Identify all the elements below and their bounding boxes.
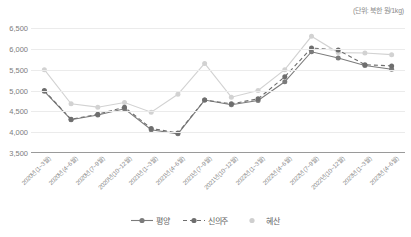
- data-point: [282, 79, 287, 84]
- y-axis-tick-label: 5,500: [0, 65, 28, 74]
- data-point: [202, 61, 207, 66]
- data-point: [229, 95, 234, 100]
- data-point: [202, 98, 207, 103]
- x-axis-line: [31, 152, 405, 153]
- data-point: [69, 101, 74, 106]
- legend-swatch-icon: [183, 211, 205, 229]
- gridline: [31, 28, 405, 29]
- data-point: [69, 117, 74, 122]
- x-axis-tick-label: 2021년(1~3월): [109, 154, 159, 204]
- legend-item-평양[interactable]: 평양: [131, 211, 170, 229]
- y-axis-labels: 3,5004,0004,5005,0005,5006,0006,500: [0, 28, 28, 153]
- series-line-혜산: [44, 36, 391, 112]
- data-point: [229, 101, 234, 106]
- y-axis-tick-label: 4,000: [0, 128, 28, 137]
- x-axis-tick-label: 2020년(7~9월): [56, 154, 106, 204]
- legend-swatch-icon: [241, 211, 263, 229]
- legend-label: 평양: [156, 215, 170, 226]
- data-point: [122, 105, 127, 110]
- y-axis-tick-label: 4,500: [0, 107, 28, 116]
- gridline: [31, 49, 405, 50]
- x-axis-tick-label: 2020년(1~3월): [3, 154, 53, 204]
- unit-note: (단위: 북한 원/1kg): [353, 5, 404, 15]
- chart-container: (단위: 북한 원/1kg) 3,5004,0004,5005,0005,500…: [0, 0, 411, 237]
- gridline: [31, 111, 405, 112]
- data-point: [309, 34, 314, 39]
- plot-area: [31, 28, 405, 153]
- x-axis-tick-label: 2022년(4~6월): [243, 154, 293, 204]
- x-axis-tick-label: 2021년(10~12월): [190, 154, 240, 204]
- gridline: [31, 91, 405, 92]
- data-point: [95, 105, 100, 110]
- data-point: [389, 63, 394, 68]
- y-axis-tick-label: 6,500: [0, 24, 28, 33]
- gridline: [31, 132, 405, 133]
- x-axis-tick-label: 2022년(10~12월): [296, 154, 346, 204]
- x-axis-tick-label: 2020년(10~12월): [83, 154, 133, 204]
- data-point: [389, 52, 394, 57]
- data-point: [336, 56, 341, 61]
- legend-item-혜산[interactable]: 혜산: [241, 211, 280, 229]
- legend-item-신의주[interactable]: 신의주: [183, 211, 228, 229]
- y-axis-tick-label: 3,500: [0, 149, 28, 158]
- legend-swatch-icon: [131, 211, 153, 229]
- x-axis-labels: 2020년(1~3월)2020년(4~6월)2020년(7~9월)2020년(1…: [31, 154, 405, 206]
- y-axis-tick-label: 5,000: [0, 86, 28, 95]
- x-axis-tick-label: 2022년(7~9월): [270, 154, 320, 204]
- legend-label: 혜산: [266, 215, 280, 226]
- y-axis-tick-label: 6,000: [0, 44, 28, 53]
- data-point: [122, 100, 127, 105]
- x-axis-tick-label: 2021년(7~9월): [163, 154, 213, 204]
- data-point: [149, 126, 154, 131]
- gridline: [31, 70, 405, 71]
- series-line-평양: [44, 52, 391, 134]
- data-point: [282, 74, 287, 79]
- legend-label: 신의주: [208, 215, 228, 226]
- data-point: [362, 62, 367, 67]
- data-point: [95, 112, 100, 117]
- x-axis-tick-label: 2023년(4~6월): [350, 154, 400, 204]
- data-point: [362, 51, 367, 56]
- data-point: [256, 96, 261, 101]
- chart-legend: 평양신의주혜산: [0, 212, 411, 228]
- data-point: [175, 92, 180, 97]
